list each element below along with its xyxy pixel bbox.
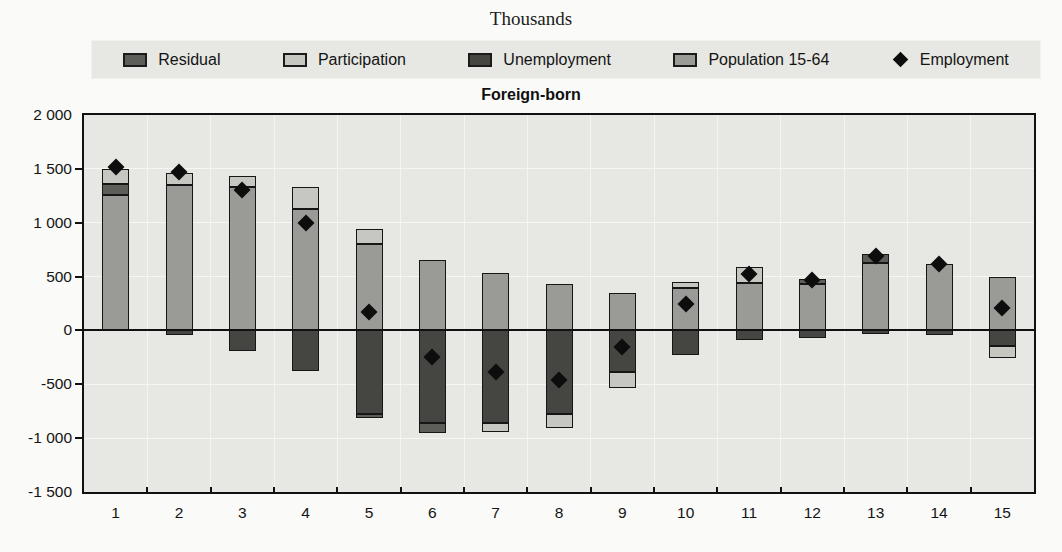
y-axis-label: -500 [2, 375, 72, 393]
h-gridline [84, 222, 1034, 223]
x-axis-tick [590, 487, 592, 494]
legend-label: Participation [318, 51, 406, 69]
x-axis-label: 14 [919, 504, 959, 522]
bar-8-participation [546, 414, 573, 427]
x-axis-label: 2 [159, 504, 199, 522]
x-axis-label: 3 [222, 504, 262, 522]
x-axis-tick [970, 487, 972, 494]
bar-4-unemployment [292, 330, 319, 371]
x-axis-label: 4 [286, 504, 326, 522]
legend-item-population: Population 15-64 [673, 51, 829, 69]
bar-2-population [166, 185, 193, 330]
v-gridline [464, 115, 465, 492]
population-swatch-icon [673, 53, 697, 67]
h-gridline [84, 168, 1034, 169]
y-axis-label: 2 000 [2, 106, 72, 124]
bar-5-residual [356, 414, 383, 418]
bar-12-population [799, 284, 826, 330]
bar-5-participation [356, 229, 383, 245]
v-gridline [844, 115, 845, 492]
y-axis-label: 1 000 [2, 214, 72, 232]
v-gridline [400, 115, 401, 492]
units-label: Thousands [0, 8, 1062, 30]
zero-line [84, 329, 1034, 331]
y-axis-label: -1 000 [2, 429, 72, 447]
x-axis-tick [526, 487, 528, 494]
x-axis-tick [400, 487, 402, 494]
legend-label: Population 15-64 [708, 51, 829, 69]
bar-4-participation [292, 187, 319, 209]
x-axis-label: 11 [729, 504, 769, 522]
x-axis-label: 9 [602, 504, 642, 522]
employment-diamond-icon [893, 52, 909, 68]
legend-item-employment: Employment [892, 51, 1009, 69]
y-axis-label: -1 500 [2, 483, 72, 501]
legend-label: Employment [920, 51, 1009, 69]
y-axis-label: 0 [2, 321, 72, 339]
y-axis-tick [75, 276, 82, 278]
chart-legend: ResidualParticipationUnemploymentPopulat… [92, 41, 1040, 78]
v-gridline [527, 115, 528, 492]
legend-item-residual: Residual [123, 51, 220, 69]
x-axis-tick [336, 487, 338, 494]
x-axis-label: 5 [349, 504, 389, 522]
v-gridline [654, 115, 655, 492]
bar-3-population [229, 187, 256, 330]
x-axis-label: 15 [982, 504, 1022, 522]
residual-swatch-icon [123, 53, 147, 67]
bar-1-population [102, 195, 129, 330]
y-axis-label: 1 500 [2, 160, 72, 178]
bar-12-unemployment [799, 330, 826, 338]
bar-6-population [419, 260, 446, 330]
bar-11-population [736, 283, 763, 330]
unemployment-swatch-icon [468, 53, 492, 67]
bar-13-population [862, 263, 889, 330]
h-gridline [84, 276, 1034, 277]
bar-7-population [482, 273, 509, 330]
x-axis-label: 13 [856, 504, 896, 522]
y-axis-tick [75, 222, 82, 224]
x-axis-label: 12 [792, 504, 832, 522]
v-gridline [210, 115, 211, 492]
bar-9-population [609, 293, 636, 331]
bar-15-unemployment [989, 330, 1016, 346]
bar-9-participation [609, 372, 636, 387]
x-axis-label: 6 [412, 504, 452, 522]
x-axis-label: 7 [476, 504, 516, 522]
bar-11-unemployment [736, 330, 763, 340]
v-gridline [590, 115, 591, 492]
x-axis-label: 1 [96, 504, 136, 522]
chart-title: Foreign-born [0, 86, 1062, 104]
v-gridline [970, 115, 971, 492]
stacked-bar-chart: Thousands ResidualParticipationUnemploym… [0, 0, 1062, 552]
v-gridline [337, 115, 338, 492]
y-axis-tick [75, 437, 82, 439]
bar-7-participation [482, 423, 509, 432]
legend-item-unemployment: Unemployment [468, 51, 611, 69]
v-gridline [717, 115, 718, 492]
v-gridline [780, 115, 781, 492]
x-axis-tick [463, 487, 465, 494]
y-axis-tick [75, 168, 82, 170]
x-axis-tick [716, 487, 718, 494]
v-gridline [907, 115, 908, 492]
legend-label: Unemployment [503, 51, 611, 69]
bar-10-unemployment [672, 330, 699, 355]
x-axis-label: 10 [666, 504, 706, 522]
v-gridline [147, 115, 148, 492]
y-axis-tick [75, 383, 82, 385]
x-axis-tick [906, 487, 908, 494]
x-axis-tick [653, 487, 655, 494]
bar-5-unemployment [356, 330, 383, 414]
x-axis-tick [273, 487, 275, 494]
x-axis-tick [843, 487, 845, 494]
bar-8-population [546, 284, 573, 330]
bar-14-population [926, 264, 953, 330]
x-axis-tick [146, 487, 148, 494]
x-axis-label: 8 [539, 504, 579, 522]
h-gridline [84, 438, 1034, 439]
v-gridline [274, 115, 275, 492]
bar-6-residual [419, 423, 446, 433]
y-axis-label: 500 [2, 268, 72, 286]
bar-15-participation [989, 346, 1016, 358]
